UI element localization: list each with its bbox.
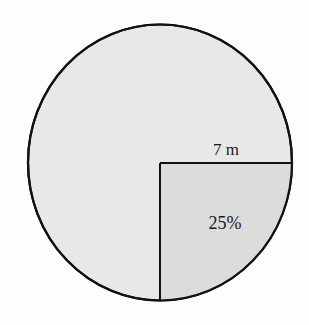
radius-label: 7 m [213,140,239,159]
percent-label: 25% [209,213,242,233]
circle-diagram: 7 m 25% [0,0,309,325]
